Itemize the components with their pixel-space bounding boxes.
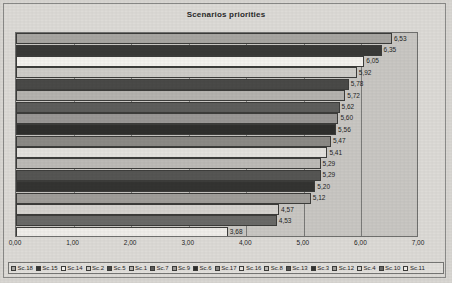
bar-Sc-4[interactable] bbox=[16, 204, 279, 215]
bar-row[interactable]: 5,78 bbox=[16, 79, 363, 90]
legend-item-Sc-18[interactable]: Sc.18 bbox=[11, 265, 33, 271]
bar-row[interactable]: 5,72 bbox=[16, 90, 360, 101]
bar-row[interactable]: 4,53 bbox=[16, 215, 291, 226]
bar-value-label: 5,29 bbox=[323, 160, 336, 168]
bar-row[interactable]: 5,12 bbox=[16, 193, 325, 204]
bar-row[interactable]: 6,05 bbox=[16, 56, 379, 67]
legend-item-Sc-7[interactable]: Sc.7 bbox=[150, 265, 169, 271]
x-tick-label: 0,00 bbox=[9, 239, 22, 246]
bar-value-label: 5,72 bbox=[347, 92, 360, 100]
legend-swatch bbox=[129, 266, 134, 271]
bar-Sc-8[interactable] bbox=[16, 158, 321, 169]
bar-Sc-18[interactable] bbox=[16, 33, 392, 44]
legend-swatch bbox=[11, 266, 16, 271]
bar-Sc-16[interactable] bbox=[16, 147, 327, 158]
bar-value-label: 6,53 bbox=[394, 35, 407, 43]
legend-item-Sc-16[interactable]: Sc.16 bbox=[239, 265, 261, 271]
bar-row[interactable]: 5,41 bbox=[16, 147, 342, 158]
bar-Sc-9[interactable] bbox=[16, 113, 338, 124]
legend-label: Sc.6 bbox=[200, 265, 212, 271]
legend-item-Sc-15[interactable]: Sc.15 bbox=[36, 265, 58, 271]
bar-row[interactable]: 5,92 bbox=[16, 67, 371, 78]
bar-Sc-12[interactable] bbox=[16, 193, 311, 204]
bar-row[interactable]: 4,57 bbox=[16, 204, 294, 215]
bar-value-label: 5,29 bbox=[323, 171, 336, 179]
bar-row[interactable]: 5,29 bbox=[16, 170, 335, 181]
legend-item-Sc-3[interactable]: Sc.3 bbox=[311, 265, 330, 271]
legend-swatch bbox=[215, 266, 220, 271]
screenshot-frame: Scenarios priorities 6,536,356,055,925,7… bbox=[0, 0, 452, 283]
bar-Sc-13[interactable] bbox=[16, 170, 321, 181]
legend-swatch bbox=[379, 266, 384, 271]
legend-label: Sc.15 bbox=[42, 265, 57, 271]
bar-value-label: 5,12 bbox=[313, 194, 326, 202]
bar-Sc-3[interactable] bbox=[16, 181, 315, 192]
legend-item-Sc-12[interactable]: Sc.12 bbox=[332, 265, 354, 271]
legend-swatch bbox=[403, 266, 408, 271]
bar-value-label: 5,56 bbox=[338, 126, 351, 134]
legend-item-Sc-4[interactable]: Sc.4 bbox=[357, 265, 376, 271]
bar-Sc-1[interactable] bbox=[16, 90, 345, 101]
legend-item-Sc-9[interactable]: Sc.9 bbox=[172, 265, 191, 271]
legend-item-Sc-1[interactable]: Sc.1 bbox=[129, 265, 148, 271]
legend-label: Sc.14 bbox=[67, 265, 82, 271]
bar-value-label: 6,35 bbox=[384, 46, 397, 54]
legend-label: Sc.16 bbox=[246, 265, 261, 271]
legend-label: Sc.9 bbox=[178, 265, 190, 271]
x-tick-label: 4,00 bbox=[239, 239, 252, 246]
legend-label: Sc.5 bbox=[114, 265, 126, 271]
bar-Sc-6[interactable] bbox=[16, 124, 336, 135]
bar-Sc-2[interactable] bbox=[16, 67, 357, 78]
bar-Sc-11[interactable] bbox=[16, 227, 228, 237]
legend-swatch bbox=[311, 266, 316, 271]
x-tick-label: 1,00 bbox=[66, 239, 79, 246]
legend-label: Sc.4 bbox=[364, 265, 376, 271]
bar-row[interactable]: 5,29 bbox=[16, 158, 335, 169]
legend-item-Sc-11[interactable]: Sc.11 bbox=[403, 265, 424, 271]
legend-swatch bbox=[36, 266, 41, 271]
bar-value-label: 5,20 bbox=[317, 183, 330, 191]
bar-row[interactable]: 5,56 bbox=[16, 124, 351, 135]
legend-item-Sc-5[interactable]: Sc.5 bbox=[107, 265, 126, 271]
legend-item-Sc-13[interactable]: Sc.13 bbox=[286, 265, 308, 271]
legend-item-Sc-6[interactable]: Sc.6 bbox=[193, 265, 212, 271]
legend-swatch bbox=[286, 266, 291, 271]
chart-title: Scenarios priorities bbox=[0, 10, 452, 19]
bar-Sc-17[interactable] bbox=[16, 136, 331, 147]
legend-swatch bbox=[357, 266, 362, 271]
legend-label: Sc.1 bbox=[135, 265, 147, 271]
plot-wrapper: 6,536,356,055,925,785,725,625,605,565,47… bbox=[15, 32, 418, 237]
bar-row[interactable]: 6,35 bbox=[16, 45, 396, 56]
bar-row[interactable]: 5,47 bbox=[16, 136, 346, 147]
legend-label: Sc.3 bbox=[317, 265, 329, 271]
legend-item-Sc-10[interactable]: Sc.10 bbox=[379, 265, 401, 271]
x-axis-tick-labels: 0,001,002,003,004,005,006,007,00 bbox=[0, 239, 452, 251]
bar-value-label: 5,62 bbox=[342, 103, 355, 111]
bar-value-label: 5,41 bbox=[329, 149, 342, 157]
legend-swatch bbox=[239, 266, 244, 271]
bar-Sc-15[interactable] bbox=[16, 45, 382, 56]
x-tick-label: 6,00 bbox=[354, 239, 367, 246]
legend-label: Sc.8 bbox=[271, 265, 283, 271]
bar-Sc-14[interactable] bbox=[16, 56, 364, 67]
chart-legend[interactable]: Sc.18Sc.15Sc.14Sc.2Sc.5Sc.1Sc.7Sc.9Sc.6S… bbox=[8, 262, 444, 274]
bar-row[interactable]: 3,68 bbox=[16, 227, 243, 237]
bar-value-label: 4,53 bbox=[279, 217, 292, 225]
legend-item-Sc-17[interactable]: Sc.17 bbox=[215, 265, 237, 271]
bar-row[interactable]: 5,62 bbox=[16, 102, 354, 113]
legend-label: Sc.11 bbox=[410, 265, 425, 271]
bar-row[interactable]: 5,60 bbox=[16, 113, 353, 124]
bar-row[interactable]: 5,20 bbox=[16, 181, 330, 192]
legend-item-Sc-2[interactable]: Sc.2 bbox=[86, 265, 105, 271]
bar-Sc-10[interactable] bbox=[16, 215, 277, 226]
bar-row[interactable]: 6,53 bbox=[16, 33, 407, 44]
legend-swatch bbox=[193, 266, 198, 271]
bar-value-label: 4,57 bbox=[281, 206, 294, 214]
bar-value-label: 5,78 bbox=[351, 80, 364, 88]
bar-Sc-5[interactable] bbox=[16, 79, 349, 90]
legend-swatch bbox=[107, 266, 112, 271]
legend-swatch bbox=[61, 266, 66, 271]
legend-item-Sc-8[interactable]: Sc.8 bbox=[264, 265, 283, 271]
bar-Sc-7[interactable] bbox=[16, 102, 340, 113]
legend-item-Sc-14[interactable]: Sc.14 bbox=[61, 265, 83, 271]
